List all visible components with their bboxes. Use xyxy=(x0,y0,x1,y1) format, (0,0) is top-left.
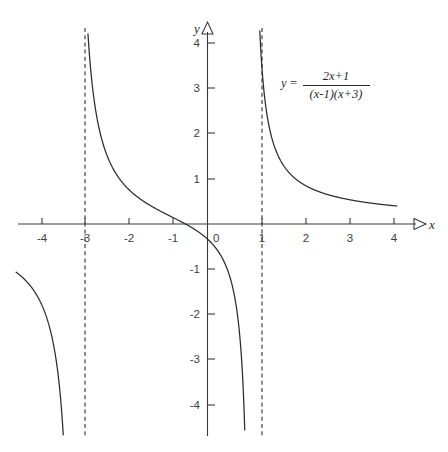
y-axis xyxy=(202,22,213,436)
y-ticklabel-2: 2 xyxy=(194,127,200,139)
x-ticklabel-2: 2 xyxy=(303,232,309,244)
curve-branch-middle xyxy=(88,34,245,430)
y-ticklabel--2: -2 xyxy=(190,308,200,320)
x-axis-label: x xyxy=(428,217,435,232)
equation-equals: = xyxy=(290,76,297,90)
y-axis-label: y xyxy=(192,21,200,36)
equation-numerator: 2x+1 xyxy=(323,69,349,83)
x-ticklabel--1: -1 xyxy=(168,232,178,244)
x-ticklabel-4: 4 xyxy=(391,232,398,244)
y-ticklabel-1: 1 xyxy=(194,173,200,185)
x-tick-marks xyxy=(42,218,394,224)
x-ticklabel-3: 3 xyxy=(347,232,353,244)
curve-branch-left xyxy=(16,272,63,435)
equation-annotation: y = 2x+1 (x-1)(x+3) xyxy=(279,69,370,101)
x-ticklabel--3: -3 xyxy=(80,232,90,244)
y-ticklabel--1: -1 xyxy=(190,263,200,275)
graph-figure: -4 -3 -2 -1 1 2 3 4 4 3 2 1 -1 -2 -3 -4 … xyxy=(0,0,448,452)
x-axis xyxy=(18,219,426,230)
x-ticklabel--4: -4 xyxy=(37,232,48,244)
function-plot-svg: -4 -3 -2 -1 1 2 3 4 4 3 2 1 -1 -2 -3 -4 … xyxy=(0,0,448,452)
x-ticklabel-1: 1 xyxy=(259,232,265,244)
origin-label: 0 xyxy=(213,232,219,244)
y-ticklabel-4: 4 xyxy=(194,37,201,49)
y-ticklabel--4: -4 xyxy=(190,399,201,411)
x-ticklabel--2: -2 xyxy=(124,232,134,244)
equation-lhs: y xyxy=(279,76,287,90)
curve-branch-right xyxy=(260,31,397,206)
equation-denominator: (x-1)(x+3) xyxy=(310,87,363,101)
y-ticklabel--3: -3 xyxy=(190,353,200,365)
y-ticklabel-3: 3 xyxy=(194,82,200,94)
